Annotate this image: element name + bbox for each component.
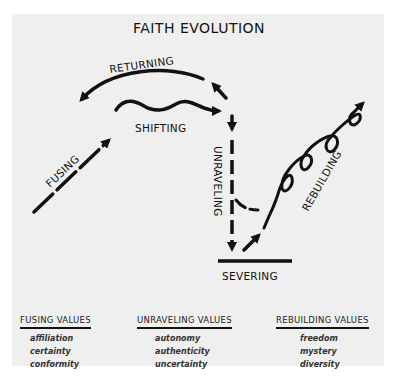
unraveling-values: UNRAVELING VALUES autonomy authenticity … [137,308,257,371]
rebuilding-label: REBUILDING [299,148,343,213]
rebuilding-arrow [264,104,362,228]
fusing-values-heading: FUSING VALUES [20,315,91,329]
unraveling-label: UNRAVELING [212,146,224,217]
fusing-values: FUSING VALUES affiliation certainty conf… [20,308,140,371]
value-item: authenticity [137,345,257,358]
fusing-arrow [34,141,108,212]
value-item: diversity [276,358,396,371]
unraveling-branch-curve [236,200,258,210]
severing-rebound-arrow [244,236,258,250]
shifting-label: SHIFTING [135,122,186,134]
returning-arrow [82,71,226,99]
rebuilding-values: REBUILDING VALUES freedom mystery divers… [276,308,396,371]
faith-evolution-diagram: FUSING SHIFTING RETURNING UNRAVELING SEV… [0,0,398,300]
value-item: uncertainty [137,358,257,371]
value-item: affiliation [20,332,140,345]
value-item: certainty [20,345,140,358]
unraveling-values-heading: UNRAVELING VALUES [137,315,232,329]
rebuilding-values-heading: REBUILDING VALUES [276,315,369,329]
value-item: mystery [276,345,396,358]
value-item: freedom [276,332,396,345]
shifting-arrow [116,101,218,111]
value-item: conformity [20,358,140,371]
severing-label: SEVERING [222,270,278,282]
value-item: autonomy [137,332,257,345]
